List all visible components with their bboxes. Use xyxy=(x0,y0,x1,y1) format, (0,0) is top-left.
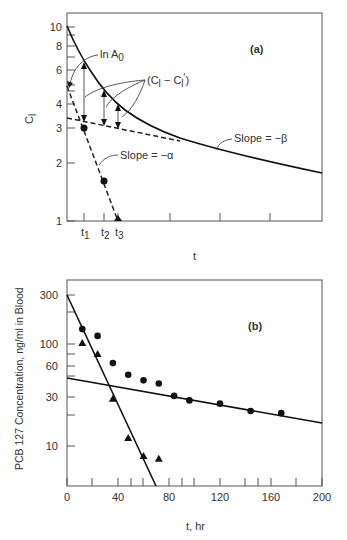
x-tick-label: 120 xyxy=(211,491,229,503)
panel-a-y-ticks: 10864321 xyxy=(50,21,75,227)
observed-point xyxy=(94,333,101,340)
x-tick-label: t3 xyxy=(115,226,124,241)
y-tick-label: 10 xyxy=(50,21,62,33)
ln-a0-annotation: ln A0 xyxy=(100,48,124,63)
residual-points xyxy=(78,339,163,462)
residual-point-t1 xyxy=(81,125,88,132)
panel-b: 300100603010 04080120160200 (b) PCB 127 … xyxy=(13,280,331,532)
x-tick-label: 200 xyxy=(313,491,331,503)
y-tick-label: 300 xyxy=(40,289,58,301)
y-tick-label: 3 xyxy=(56,122,62,134)
residual-point xyxy=(78,339,86,346)
x-tick-label: 0 xyxy=(64,491,70,503)
panel-a-x-axis-label: t xyxy=(193,250,196,262)
panel-a-y-axis-label: Cl xyxy=(23,114,38,124)
y-tick-label: 8 xyxy=(56,40,62,52)
panel-b-frame xyxy=(67,280,322,486)
x-tick-label: t2 xyxy=(101,226,110,241)
panel-a-minor-ticks xyxy=(67,35,270,221)
y-tick-label: 30 xyxy=(46,391,58,403)
panel-b-label: (b) xyxy=(248,320,262,332)
residual-point xyxy=(124,434,132,441)
observed-point xyxy=(156,380,163,387)
observed-point xyxy=(110,360,117,367)
panel-b-y-ticks: 300100603010 xyxy=(40,289,75,452)
observed-point xyxy=(171,393,178,400)
alpha-leader xyxy=(99,155,118,165)
observed-point xyxy=(186,397,193,404)
panel-a: 10864321 t1t2t3 xyxy=(23,13,322,262)
residual-point-t2 xyxy=(101,178,108,185)
x-tick-label: t1 xyxy=(81,226,90,241)
y-tick-label: 6 xyxy=(56,64,62,76)
panel-a-label: (a) xyxy=(250,43,264,55)
y-tick-label: 1 xyxy=(56,215,62,227)
observed-point xyxy=(247,408,254,415)
panel-b-x-ticks: 04080120160200 xyxy=(64,478,331,503)
observed-point xyxy=(125,371,132,378)
slope-alpha-annotation: Slope = −α xyxy=(120,149,174,161)
x-tick-label: 160 xyxy=(262,491,280,503)
y-tick-label: 100 xyxy=(40,338,58,350)
slope-beta-annotation: Slope = −β xyxy=(234,132,287,144)
y-tick-label: 10 xyxy=(46,440,58,452)
residual-point xyxy=(155,455,163,462)
observed-point xyxy=(140,377,147,384)
alpha-residual-line xyxy=(67,86,118,221)
residual-point-t3 xyxy=(114,215,122,221)
x-tick-label: 80 xyxy=(163,491,175,503)
observed-points xyxy=(79,326,285,417)
difference-leaders xyxy=(85,80,145,117)
y-tick-label: 60 xyxy=(46,360,58,372)
y-tick-label: 2 xyxy=(56,157,62,169)
y-tick-label: 4 xyxy=(56,98,62,110)
x-tick-label: 40 xyxy=(112,491,124,503)
figure: 10864321 t1t2t3 xyxy=(0,0,347,540)
panel-b-x-axis-label: t, hr xyxy=(186,520,205,532)
observed-point xyxy=(217,400,224,407)
observed-point xyxy=(278,410,285,417)
slow-phase-fit-line xyxy=(67,378,322,423)
observed-point xyxy=(79,326,86,333)
panel-b-y-axis-label: PCB 127 Concentration, ng/ml in Blood xyxy=(13,287,25,470)
difference-annotation: (Cl − Cl′) xyxy=(147,72,189,89)
panel-a-frame xyxy=(67,13,322,221)
